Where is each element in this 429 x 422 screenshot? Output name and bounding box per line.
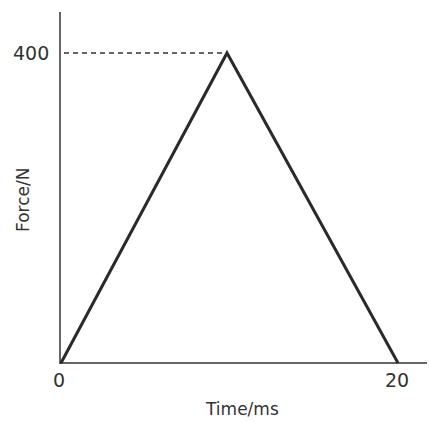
x-tick-0: 0 xyxy=(53,369,65,391)
force-curve xyxy=(61,53,398,363)
x-tick-20: 20 xyxy=(385,369,409,391)
y-tick-400: 400 xyxy=(13,42,49,64)
x-axis-label: Time/ms xyxy=(206,399,279,419)
y-axis-label: Force/N xyxy=(13,168,33,232)
force-time-graph xyxy=(0,0,429,422)
